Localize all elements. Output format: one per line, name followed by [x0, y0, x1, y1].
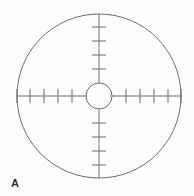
figure-panel: A	[0, 0, 194, 196]
center-circle	[86, 83, 112, 109]
panel-label: A	[11, 176, 19, 190]
reticle-group	[17, 14, 181, 178]
reticle-diagram	[0, 0, 194, 196]
